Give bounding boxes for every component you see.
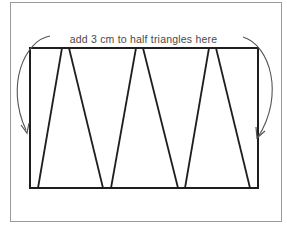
cut-line-2 <box>69 48 103 188</box>
cut-line-4 <box>143 48 178 188</box>
cut-line-5 <box>185 48 209 188</box>
diagram-caption: add 3 cm to half triangles here <box>0 33 287 45</box>
cut-line-3 <box>111 48 136 188</box>
cut-line-1 <box>38 48 62 188</box>
triangle-cut-lines <box>38 48 250 188</box>
cut-line-6 <box>216 48 250 188</box>
fabric-rectangle <box>30 48 258 188</box>
left-arrow-icon <box>17 36 50 133</box>
